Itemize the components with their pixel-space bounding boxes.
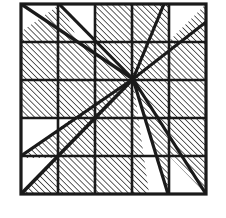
figure-container bbox=[0, 0, 226, 218]
geometric-figure bbox=[0, 0, 226, 218]
